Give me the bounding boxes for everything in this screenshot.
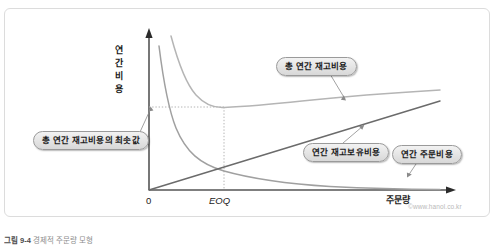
- callout-ordering-cost: 연간 주문비용: [392, 145, 462, 164]
- callout-min-total-cost: 총 연간 재고비용의 최솟값: [33, 131, 149, 150]
- x-axis-eoq-tick: EOQ: [209, 196, 230, 206]
- y-axis-label: 연간 비용: [112, 44, 126, 96]
- callout-holding-cost: 연간 재고보유비용: [303, 143, 389, 162]
- figure-caption-number: 그림 9-4: [4, 236, 31, 245]
- x-axis: [149, 186, 456, 193]
- figure-caption-text: 경제적 주문량 모형: [33, 236, 93, 245]
- figure-caption: 그림 9-4 경제적 주문량 모형: [4, 236, 93, 245]
- x-axis-label: 주문량: [386, 196, 410, 205]
- x-axis-origin-tick: 0: [146, 196, 151, 206]
- watermark: ©www.hanol.co.kr: [408, 203, 462, 210]
- callout-total-cost: 총 연간 재고비용: [276, 57, 357, 76]
- leader-total: [330, 74, 345, 99]
- guide-lines: [149, 107, 224, 190]
- callout-leader-lines: [140, 74, 418, 178]
- leader-holding: [343, 126, 363, 143]
